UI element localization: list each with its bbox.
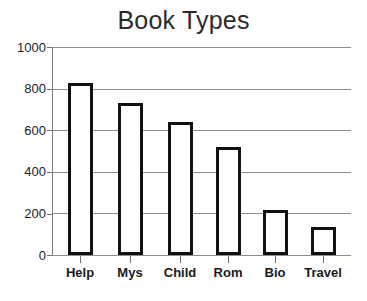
gridline-0 [52, 255, 351, 256]
y-tick-label-1000: 1000 [2, 41, 46, 54]
x-tick-mark-child [180, 256, 181, 263]
gridline-400 [52, 172, 351, 173]
x-tick-mark-travel [323, 256, 324, 263]
bar-bio[interactable] [263, 210, 288, 255]
bar-child[interactable] [168, 122, 193, 255]
y-tick-label-800: 800 [2, 82, 46, 95]
bar-travel[interactable] [311, 227, 336, 255]
y-tick-label-600: 600 [2, 124, 46, 137]
plot-area [52, 47, 351, 255]
x-tick-mark-mys [130, 256, 131, 263]
bar-rom[interactable] [216, 147, 241, 255]
y-tick-label-200: 200 [2, 207, 46, 220]
bar-help[interactable] [68, 83, 93, 255]
gridline-800 [52, 89, 351, 90]
x-tick-label-rom: Rom [214, 265, 243, 280]
x-tick-label-travel: Travel [304, 265, 342, 280]
gridline-1000 [52, 47, 351, 48]
chart-title: Book Types [0, 6, 367, 35]
y-tick-label-0: 0 [2, 249, 46, 262]
x-tick-label-help: Help [66, 265, 94, 280]
gridline-200 [52, 213, 351, 214]
x-tick-label-child: Child [164, 265, 197, 280]
gridline-600 [52, 130, 351, 131]
y-axis-tick-labels: 1000 800 600 400 200 0 [0, 0, 46, 301]
bar-chart-figure: Book Types 1000 800 600 400 200 0 Help M… [0, 0, 367, 301]
y-tick-label-400: 400 [2, 165, 46, 178]
x-tick-mark-bio [275, 256, 276, 263]
x-tick-mark-rom [228, 256, 229, 263]
x-tick-label-bio: Bio [265, 265, 286, 280]
bar-mys[interactable] [118, 103, 143, 255]
x-tick-label-mys: Mys [117, 265, 142, 280]
x-tick-mark-help [80, 256, 81, 263]
